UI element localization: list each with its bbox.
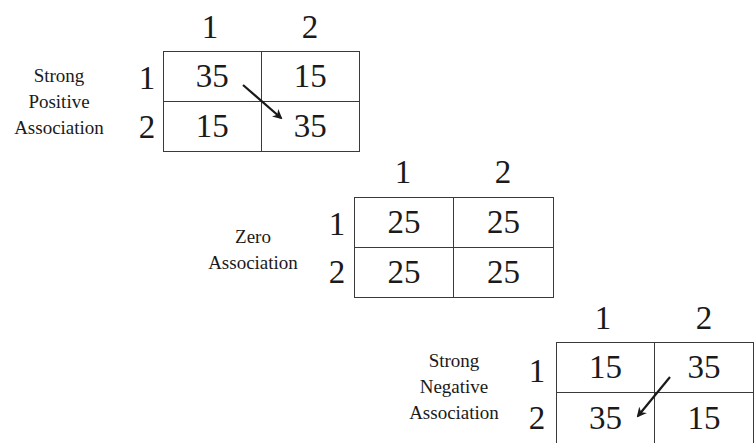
row-label: 2 (135, 111, 159, 144)
column-label: 1 (383, 156, 423, 189)
table-cell: 25 (454, 198, 553, 248)
table-cell: 35 (655, 343, 753, 393)
association-description: Zero Association (196, 224, 310, 276)
description-line: Association (396, 400, 512, 426)
table-cell: 25 (355, 248, 454, 298)
description-line: Association (196, 250, 310, 276)
association-description: Strong Positive Association (0, 63, 118, 141)
column-label: 1 (190, 11, 230, 44)
description-line: Strong (0, 63, 118, 89)
table-cell: 35 (164, 52, 262, 102)
row-label: 1 (525, 355, 549, 388)
row-label: 1 (135, 62, 159, 95)
table-cell: 35 (262, 102, 360, 152)
table-cell: 25 (454, 248, 553, 298)
description-line: Positive (0, 89, 118, 115)
description-line: Zero (196, 224, 310, 250)
row-label: 1 (325, 208, 349, 241)
description-line: Strong (396, 348, 512, 374)
column-label: 2 (684, 302, 724, 335)
column-label: 2 (290, 11, 330, 44)
association-description: Strong Negative Association (396, 348, 512, 426)
description-line: Association (0, 115, 118, 141)
table-cell: 15 (262, 52, 360, 102)
column-label: 1 (583, 302, 623, 335)
table-cell: 15 (557, 343, 655, 393)
row-label: 2 (325, 256, 349, 289)
table-cell: 25 (355, 198, 454, 248)
column-label: 2 (483, 156, 523, 189)
description-line: Negative (396, 374, 512, 400)
table-cell: 35 (557, 393, 655, 443)
table-cell: 15 (164, 102, 262, 152)
table-cell: 15 (655, 393, 753, 443)
row-label: 2 (525, 402, 549, 435)
contingency-table: 35 15 15 35 (163, 51, 360, 152)
contingency-table: 15 35 35 15 (556, 342, 754, 443)
contingency-table: 25 25 25 25 (354, 197, 554, 298)
